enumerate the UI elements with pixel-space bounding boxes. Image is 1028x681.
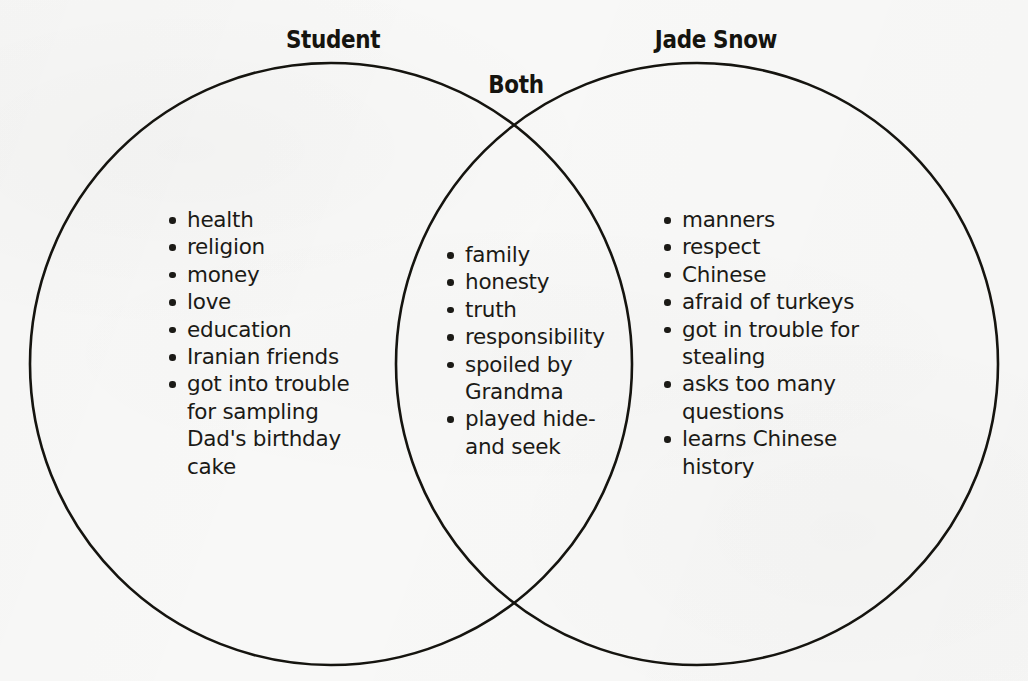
heading-overlap-both: Both <box>430 70 602 99</box>
list-item: asks too many questions <box>663 370 908 425</box>
list-overlap-both: familyhonestytruthresponsibilityspoiled … <box>446 241 631 460</box>
list-item: money <box>168 261 383 288</box>
list-item: Iranian friends <box>168 343 383 370</box>
list-item: religion <box>168 233 383 260</box>
list-item: respect <box>663 233 908 260</box>
list-item: responsibility <box>446 323 631 350</box>
list-item: honesty <box>446 268 631 295</box>
list-item: love <box>168 288 383 315</box>
list-item: manners <box>663 206 908 233</box>
list-item: education <box>168 316 383 343</box>
list-item: health <box>168 206 383 233</box>
list-item: played hide-and seek <box>446 405 631 460</box>
list-item: family <box>446 241 631 268</box>
heading-right-jade-snow: Jade Snow <box>630 25 802 54</box>
list-right-jade-snow: mannersrespectChineseafraid of turkeysgo… <box>663 206 908 480</box>
list-item: truth <box>446 296 631 323</box>
list-left-student: healthreligionmoneyloveeducationIranian … <box>168 206 383 480</box>
heading-left-student: Student <box>247 25 419 54</box>
list-item: learns Chinese history <box>663 425 908 480</box>
list-item: spoiled by Grandma <box>446 351 631 406</box>
list-item: got in trouble for stealing <box>663 316 908 371</box>
list-item: afraid of turkeys <box>663 288 908 315</box>
list-item: Chinese <box>663 261 908 288</box>
list-item: got into trouble for sampling Dad's birt… <box>168 370 383 480</box>
venn-diagram-page: Student Both Jade Snow healthreligionmon… <box>0 0 1028 681</box>
